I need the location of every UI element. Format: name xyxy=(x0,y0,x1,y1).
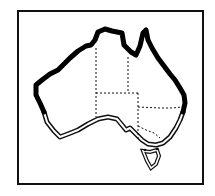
tasmania xyxy=(143,150,159,168)
state-borders xyxy=(96,48,182,140)
island-dot xyxy=(156,148,159,151)
qld-nsw-border xyxy=(138,107,182,108)
island-dot xyxy=(144,149,147,152)
southern-coastline xyxy=(44,112,183,145)
northern-coastline xyxy=(36,29,185,112)
australia-map xyxy=(0,0,215,196)
